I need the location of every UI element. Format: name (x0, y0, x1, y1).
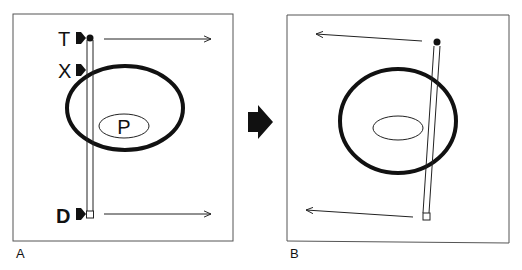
inner-label-p: P (117, 116, 130, 138)
diagram-canvas: P T X D A B (0, 0, 522, 270)
panel-b-label: B (290, 246, 299, 261)
probe-b-bottom-square-icon (423, 213, 430, 220)
marker-d-arrow-icon (76, 208, 86, 220)
transition-arrow-icon (248, 105, 273, 139)
panel-b-bottom-motion-arrow-icon (306, 210, 413, 217)
marker-t-arrow-icon (76, 32, 86, 44)
panel-a-label: A (16, 246, 25, 261)
marker-x-label: X (58, 60, 71, 82)
panel-b-outer-circle (340, 69, 456, 173)
probe-a-top-dot-icon (87, 35, 94, 42)
panel-b: B (287, 15, 509, 261)
probe-b-left-line (423, 46, 434, 213)
marker-x-arrow-icon (76, 64, 86, 76)
panel-b-frame (287, 15, 509, 243)
panel-b-inner-ellipse (373, 116, 423, 140)
probe-b-top-dot-icon (434, 39, 441, 46)
probe-b-right-line (429, 46, 440, 213)
probe-a-bottom-square-icon (87, 211, 94, 218)
panel-a: P T X D A (13, 14, 233, 261)
marker-t-label: T (58, 28, 70, 50)
marker-d-label: D (56, 205, 70, 227)
panel-b-top-motion-arrow-icon (316, 34, 422, 41)
